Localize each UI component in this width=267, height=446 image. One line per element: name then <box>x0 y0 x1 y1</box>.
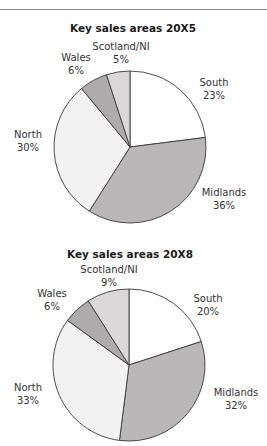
pie-charts: Key sales areas 20X5 South23%Midlands36%… <box>0 0 267 446</box>
slice-value: 32% <box>225 400 247 411</box>
slice-label: South <box>199 77 228 88</box>
slice-value: 9% <box>101 277 117 288</box>
chart-title: Key sales areas 20X8 <box>67 248 193 260</box>
slice-label: South <box>193 293 222 304</box>
slice-value: 33% <box>17 395 39 406</box>
slice-value: 6% <box>44 301 60 312</box>
slice-label: Scotland/NI <box>92 41 149 52</box>
pie-chart-20x8: Key sales areas 20X8 South20%Midlands32%… <box>14 248 258 441</box>
slice-value: 30% <box>17 142 39 153</box>
pie-slice-south <box>130 71 205 147</box>
slice-label: Midlands <box>214 387 259 398</box>
slice-label: North <box>14 382 42 393</box>
slice-value: 23% <box>203 90 225 101</box>
slice-label: North <box>14 129 42 140</box>
pie-chart-20x5: Key sales areas 20X5 South23%Midlands36%… <box>14 22 246 223</box>
slice-label: Midlands <box>202 187 247 198</box>
slice-label: Scotland/NI <box>80 264 137 275</box>
slice-value: 6% <box>68 65 84 76</box>
slice-label: Wales <box>37 288 67 299</box>
chart-title: Key sales areas 20X5 <box>70 22 196 34</box>
slice-label: Wales <box>61 52 91 63</box>
slice-value: 20% <box>197 306 219 317</box>
slice-value: 36% <box>213 200 235 211</box>
slice-value: 5% <box>113 54 129 65</box>
